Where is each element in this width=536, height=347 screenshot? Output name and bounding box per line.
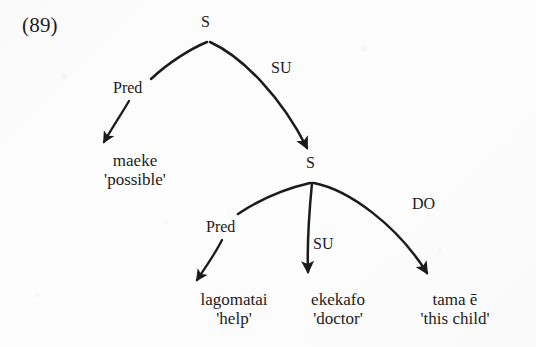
- leaf-gloss: 'doctor': [311, 310, 365, 328]
- leaf-maeke: maeke 'possible': [104, 152, 166, 189]
- node-root-s: S: [201, 14, 210, 31]
- relation-upper-pred: Pred: [113, 80, 142, 97]
- example-number: (89): [22, 14, 58, 36]
- leaf-gloss: 'this child': [421, 310, 490, 328]
- leaf-form: maeke: [104, 152, 166, 170]
- leaf-form: lagomatai: [200, 291, 267, 309]
- branch-root-to-upper-pred: [151, 42, 207, 79]
- branch-root-to-upper-su: [210, 42, 307, 148]
- node-embedded-s: S: [306, 155, 315, 172]
- leaf-lagomatai: lagomatai 'help': [200, 291, 267, 328]
- arrow-upper-pred-to-maeke: [104, 101, 129, 142]
- arrow-lower-pred-to-lagomatai: [197, 240, 222, 280]
- leaf-form: ekekafo: [311, 291, 365, 309]
- leaf-tama-e: tama ē 'this child': [421, 291, 490, 328]
- branch-embedded-to-lower-su: [308, 183, 312, 272]
- relation-lower-su: SU: [313, 236, 333, 253]
- leaf-form: tama ē: [421, 291, 490, 309]
- relation-lower-do: DO: [412, 196, 435, 213]
- leaf-gloss: 'help': [200, 310, 267, 328]
- figure-canvas: (89) S Pred SU S Pred SU DO maeke 'possi…: [0, 0, 536, 347]
- relation-lower-pred: Pred: [206, 219, 235, 236]
- branch-embedded-to-lower-do: [314, 183, 427, 273]
- relation-upper-su: SU: [271, 60, 291, 77]
- leaf-gloss: 'possible': [104, 171, 166, 189]
- leaf-ekekafo: ekekafo 'doctor': [311, 291, 365, 328]
- branch-embedded-to-lower-pred: [238, 183, 310, 214]
